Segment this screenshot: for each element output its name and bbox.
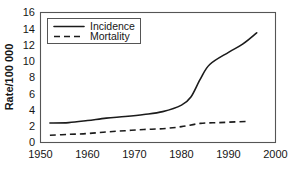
y-tick-label: 6 <box>29 88 35 100</box>
y-tick-label: 0 <box>29 136 35 148</box>
x-tick-label: 1980 <box>169 148 193 160</box>
x-tick-label: 1950 <box>28 148 52 160</box>
y-tick-label: 14 <box>23 23 35 35</box>
x-tick-label: 1970 <box>122 148 146 160</box>
x-tick-label: 1990 <box>216 148 240 160</box>
y-tick-label: 8 <box>29 71 35 83</box>
y-tick-label: 12 <box>23 39 35 51</box>
x-tick-label: 1960 <box>75 148 99 160</box>
y-tick-label: 10 <box>23 55 35 67</box>
y-tick-label: 4 <box>29 104 35 116</box>
chart-container: 0246810121416 195019601970198019902000 R… <box>0 0 291 174</box>
line-chart: 0246810121416 195019601970198019902000 R… <box>0 0 291 174</box>
chart-legend: Incidence Mortality <box>48 19 141 44</box>
legend-label-mortality: Mortality <box>90 30 130 42</box>
y-tick-label: 2 <box>29 120 35 132</box>
x-tick-label: 2000 <box>263 148 287 160</box>
y-axis-title: Rate/100 000 <box>3 44 15 111</box>
y-tick-label: 16 <box>23 6 35 18</box>
